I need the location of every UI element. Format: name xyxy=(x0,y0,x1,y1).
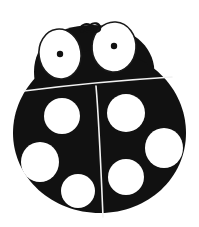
ladybug-illustration xyxy=(0,0,199,227)
illustration-canvas: Ladybug ladybug-line-art black-and-white… xyxy=(0,0,199,227)
right-eye-pupil xyxy=(111,43,117,49)
left-eye-pupil xyxy=(57,51,63,57)
